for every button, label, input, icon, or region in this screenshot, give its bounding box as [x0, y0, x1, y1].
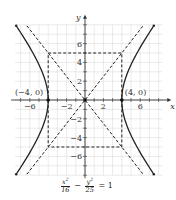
x-axis-label: x [170, 102, 175, 111]
equals-one: = 1 [99, 181, 113, 190]
svg-text:−6: −6 [70, 152, 82, 161]
svg-text:4: 4 [77, 58, 82, 67]
vertex-label-right: (4, 0) [125, 88, 147, 97]
svg-text:2: 2 [101, 102, 106, 111]
svg-text:−4: −4 [70, 134, 82, 143]
svg-text:6: 6 [138, 102, 143, 111]
vertex-label-left: (−4, 0) [15, 88, 43, 97]
hyperbola-chart: −6−226−6−4−2246 x y (−4, 0) (4, 0) [0, 0, 176, 200]
equation-caption: x2 16 − y2 25 = 1 [0, 178, 176, 193]
svg-text:6: 6 [77, 40, 82, 49]
svg-text:2: 2 [77, 77, 82, 86]
fraction-y: y2 25 [85, 178, 94, 193]
svg-text:−6: −6 [24, 102, 36, 111]
minus-sign: − [74, 181, 81, 190]
svg-text:−2: −2 [61, 102, 73, 111]
y-axis-label: y [75, 13, 81, 22]
svg-text:−2: −2 [70, 115, 82, 124]
fraction-x: x2 16 [61, 178, 70, 193]
